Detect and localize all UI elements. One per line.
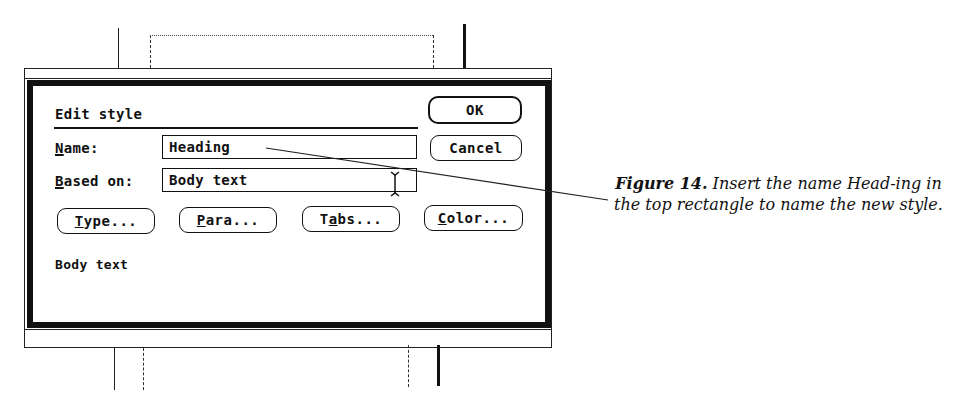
figure-caption: Figure 14. Insert the name Head-ing in t… (606, 173, 951, 215)
figure-label: Figure 14. (615, 174, 707, 193)
i-beam-cursor-icon (391, 172, 399, 196)
caption-leader-line (266, 148, 608, 200)
